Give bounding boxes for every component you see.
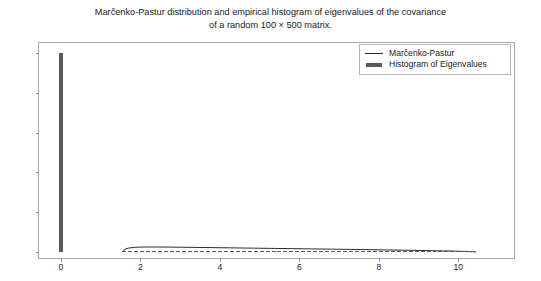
histogram-bar	[188, 251, 192, 252]
histogram-bar	[397, 251, 401, 252]
histogram-bar	[59, 53, 63, 252]
legend-line-swatch-icon	[365, 53, 383, 54]
chart-figure: Marčenko-Pastur distribution and empiric…	[0, 0, 541, 281]
histogram-bar	[295, 251, 299, 252]
histogram-bar	[468, 251, 472, 252]
histogram-bar	[301, 251, 305, 252]
histogram-bar	[307, 251, 311, 252]
histogram-bar	[349, 251, 353, 252]
histogram-bar	[236, 251, 240, 252]
histogram-bar	[331, 251, 335, 252]
y-tick-mark	[36, 93, 40, 94]
chart-title: Marčenko-Pastur distribution and empiric…	[0, 6, 541, 31]
histogram-bar	[242, 251, 246, 252]
histogram-bar	[379, 251, 383, 252]
legend-label-histogram: Histogram of Eigenvalues	[389, 59, 487, 70]
histogram-bar	[277, 251, 281, 252]
histogram-bar	[325, 251, 329, 252]
histogram-bar	[206, 251, 210, 252]
histogram-bar	[176, 251, 180, 252]
histogram-bar	[427, 251, 431, 252]
histogram-bar	[146, 251, 150, 252]
histogram-bar	[385, 251, 389, 252]
histogram-bar	[433, 251, 437, 252]
histogram-bar	[140, 251, 144, 252]
histogram-bar	[272, 251, 276, 252]
legend-item-histogram: Histogram of Eigenvalues	[365, 59, 505, 70]
histogram-bar	[409, 251, 413, 252]
histogram-bar	[319, 251, 323, 252]
histogram-bar	[182, 251, 186, 252]
histogram-bars	[39, 43, 514, 258]
histogram-bar	[260, 251, 264, 252]
histogram-bar	[122, 251, 126, 252]
histogram-bar	[355, 251, 359, 252]
y-tick-mark	[36, 212, 40, 213]
histogram-bar	[248, 251, 252, 252]
histogram-bar	[164, 251, 168, 252]
x-tick-mark	[61, 258, 62, 262]
histogram-bar	[391, 251, 395, 252]
histogram-bar	[438, 251, 442, 252]
histogram-bar	[415, 251, 419, 252]
y-tick-mark	[36, 53, 40, 54]
plot-inner: 0246810 0.00.20.40.60.81.0 Marčenko-Past…	[39, 43, 514, 258]
x-tick-mark	[140, 258, 141, 262]
histogram-bar	[367, 251, 371, 252]
histogram-bar	[230, 251, 234, 252]
histogram-bar	[158, 251, 162, 252]
histogram-bar	[134, 251, 138, 252]
histogram-bar	[224, 251, 228, 252]
histogram-bar	[361, 251, 365, 252]
histogram-bar	[421, 251, 425, 252]
x-tick-label: 4	[217, 263, 222, 272]
x-tick-mark	[220, 258, 221, 262]
x-tick-mark	[379, 258, 380, 262]
x-tick-label: 6	[297, 263, 302, 272]
y-tick-mark	[36, 133, 40, 134]
histogram-bar	[283, 251, 287, 252]
legend-item-marcenko-pastur: Marčenko-Pastur	[365, 48, 505, 59]
histogram-bar	[343, 251, 347, 252]
histogram-bar	[313, 251, 317, 252]
legend-label-marcenko-pastur: Marčenko-Pastur	[389, 48, 454, 59]
histogram-bar	[128, 251, 132, 252]
histogram-bar	[194, 251, 198, 252]
x-tick-mark	[299, 258, 300, 262]
histogram-bar	[170, 251, 174, 252]
histogram-bar	[403, 251, 407, 252]
plot-area: 0246810 0.00.20.40.60.81.0 Marčenko-Past…	[38, 42, 515, 259]
histogram-bar	[200, 251, 204, 252]
histogram-bar	[289, 251, 293, 252]
histogram-bar	[152, 251, 156, 252]
histogram-bar	[462, 251, 466, 252]
x-tick-mark	[458, 258, 459, 262]
histogram-bar	[266, 251, 270, 252]
y-tick-mark	[36, 172, 40, 173]
histogram-bar	[218, 251, 222, 252]
legend-bar-swatch-icon	[365, 63, 383, 67]
histogram-bar	[450, 251, 454, 252]
x-tick-label: 2	[138, 263, 143, 272]
histogram-bar	[373, 251, 377, 252]
x-tick-label: 8	[376, 263, 381, 272]
histogram-bar	[254, 251, 258, 252]
chart-legend: Marčenko-Pastur Histogram of Eigenvalues	[359, 44, 511, 75]
histogram-bar	[444, 251, 448, 252]
histogram-bar	[337, 251, 341, 252]
x-tick-label: 0	[58, 263, 63, 272]
histogram-bar	[212, 251, 216, 252]
y-tick-mark	[36, 252, 40, 253]
histogram-bar	[456, 251, 460, 252]
x-tick-label: 10	[454, 263, 464, 272]
